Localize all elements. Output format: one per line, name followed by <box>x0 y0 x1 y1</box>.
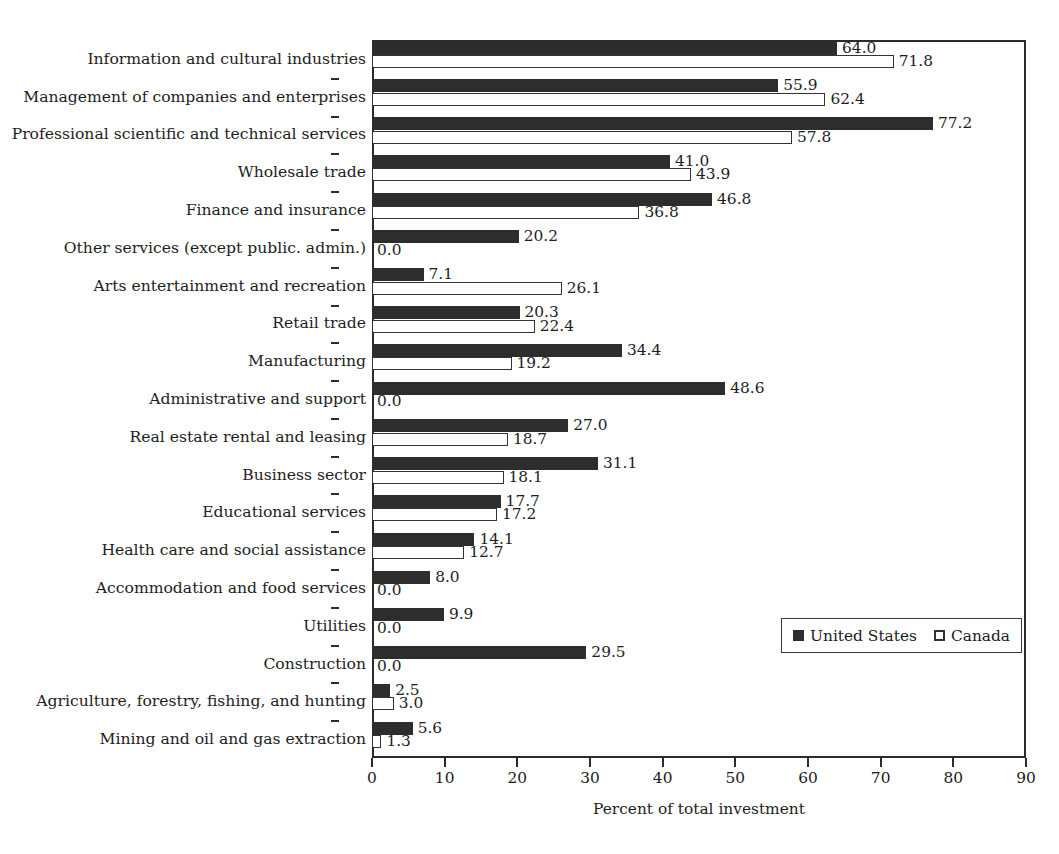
value-tick-icon <box>662 758 664 767</box>
bar-united-states <box>372 495 501 508</box>
category-axis-ticks <box>0 40 372 758</box>
value-tick-label: 90 <box>1016 769 1036 787</box>
value-tick-icon <box>807 758 809 767</box>
bar-value-label: 17.2 <box>502 508 536 521</box>
category-tick-icon <box>331 153 339 155</box>
bar-value-label: 77.2 <box>938 117 972 130</box>
bar-value-label: 0.0 <box>377 244 401 257</box>
bar-value-label: 36.8 <box>644 206 678 219</box>
value-tick-label: 40 <box>653 769 673 787</box>
bar-value-label: 20.2 <box>524 230 558 243</box>
category-tick-icon <box>331 645 339 647</box>
bar-value-label: 12.7 <box>469 546 503 559</box>
value-tick-label: 50 <box>726 769 746 787</box>
bar-canada <box>372 168 691 181</box>
value-tick-icon <box>444 758 446 767</box>
bar-united-states <box>372 457 598 470</box>
bar-value-label: 8.0 <box>435 571 459 584</box>
value-tick-label: 0 <box>367 769 377 787</box>
bar-value-label: 43.9 <box>696 168 730 181</box>
bar-canada <box>372 471 504 484</box>
bar-value-label: 3.0 <box>399 697 423 710</box>
category-tick-icon <box>331 418 339 420</box>
bar-value-label: 71.8 <box>899 55 933 68</box>
bar-value-label: 0.0 <box>377 660 401 673</box>
bar-canada <box>372 320 535 333</box>
bar-united-states <box>372 268 424 281</box>
value-tick-icon <box>734 758 736 767</box>
bar-canada <box>372 357 512 370</box>
bar-value-label: 22.4 <box>540 320 574 333</box>
category-tick-icon <box>331 267 339 269</box>
value-tick-label: 20 <box>508 769 528 787</box>
category-tick-icon <box>331 305 339 307</box>
bar-value-label: 1.3 <box>386 735 410 748</box>
bar-value-label: 27.0 <box>573 419 607 432</box>
bar-value-label: 29.5 <box>591 646 625 659</box>
bar-value-label: 48.6 <box>730 382 764 395</box>
category-tick-icon <box>331 456 339 458</box>
bar-value-label: 18.7 <box>513 433 547 446</box>
category-tick-icon <box>331 342 339 344</box>
chart-legend: United States Canada <box>781 618 1022 653</box>
bar-value-label: 0.0 <box>377 622 401 635</box>
bar-united-states <box>372 344 622 357</box>
category-tick-icon <box>331 682 339 684</box>
bar-canada <box>372 546 464 559</box>
bar-value-label: 0.0 <box>377 395 401 408</box>
bar-value-label: 46.8 <box>717 193 751 206</box>
bar-value-label: 7.1 <box>429 268 453 281</box>
category-tick-icon <box>331 569 339 571</box>
legend-label-united-states: United States <box>810 627 917 645</box>
bar-value-label: 64.0 <box>842 42 876 55</box>
bar-value-label: 5.6 <box>418 722 442 735</box>
bar-value-label: 57.8 <box>797 131 831 144</box>
bar-value-label: 34.4 <box>627 344 661 357</box>
legend-label-canada: Canada <box>951 627 1010 645</box>
category-tick-icon <box>331 229 339 231</box>
horizontal-bar-chart: Information and cultural industriesManag… <box>0 0 1059 854</box>
value-tick-icon <box>371 758 373 767</box>
bar-united-states <box>372 117 933 130</box>
category-tick-icon <box>331 116 339 118</box>
category-tick-icon <box>331 380 339 382</box>
value-tick-icon <box>880 758 882 767</box>
category-tick-icon <box>331 493 339 495</box>
category-tick-icon <box>331 191 339 193</box>
bar-value-label: 18.1 <box>509 471 543 484</box>
value-tick-label: 80 <box>944 769 964 787</box>
value-tick-label: 60 <box>798 769 818 787</box>
value-tick-label: 10 <box>435 769 455 787</box>
bar-united-states <box>372 533 474 546</box>
bar-united-states <box>372 306 520 319</box>
open-square-icon <box>934 630 945 641</box>
bar-united-states <box>372 155 670 168</box>
filled-square-icon <box>793 630 804 641</box>
value-tick-label: 30 <box>580 769 600 787</box>
bar-united-states <box>372 646 586 659</box>
bar-canada <box>372 433 508 446</box>
value-tick-icon <box>952 758 954 767</box>
value-tick-icon <box>1025 758 1027 767</box>
value-axis-title: Percent of total investment <box>372 800 1026 818</box>
bar-canada <box>372 508 497 521</box>
bar-canada <box>372 697 394 710</box>
category-tick-icon <box>331 607 339 609</box>
bar-value-label: 55.9 <box>783 79 817 92</box>
bar-united-states <box>372 42 837 55</box>
bar-value-label: 62.4 <box>830 93 864 106</box>
bar-united-states <box>372 382 725 395</box>
legend-item-canada: Canada <box>934 627 1010 645</box>
legend-item-united-states: United States <box>793 627 917 645</box>
bar-canada <box>372 735 381 748</box>
bar-canada <box>372 93 825 106</box>
value-tick-icon <box>516 758 518 767</box>
value-tick-label: 70 <box>871 769 891 787</box>
bar-canada <box>372 55 894 68</box>
bar-value-label: 26.1 <box>567 282 601 295</box>
bar-united-states <box>372 79 778 92</box>
bar-canada <box>372 131 792 144</box>
category-tick-icon <box>331 720 339 722</box>
bar-united-states <box>372 684 390 697</box>
bar-value-label: 31.1 <box>603 457 637 470</box>
